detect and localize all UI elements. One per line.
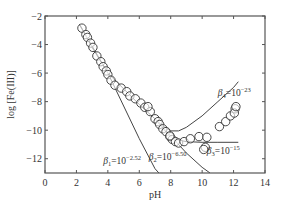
- x-tick-label: 12: [229, 177, 239, 188]
- y-tick-label: −10: [26, 125, 42, 136]
- data-point: [186, 135, 194, 143]
- data-point: [166, 132, 174, 140]
- model-curve: [80, 25, 210, 173]
- x-tick-label: 14: [260, 177, 270, 188]
- y-tick-label: −6: [31, 68, 42, 79]
- beta-label: β2=10−6.50: [148, 150, 187, 163]
- data-point: [89, 43, 97, 51]
- data-point: [195, 132, 203, 140]
- data-point: [203, 133, 211, 141]
- x-tick-label: 4: [105, 177, 110, 188]
- data-point: [144, 102, 152, 110]
- x-tick-label: 2: [74, 177, 79, 188]
- beta-annotations: β1=10−2.52β2=10−6.50β3=10−15β4=10−23: [102, 86, 251, 168]
- ph-iron-solubility-chart: 02468101214 −2−4−6−8−10−12 pH log [Fe(II…: [0, 0, 281, 204]
- data-point: [232, 102, 240, 110]
- beta-label: β3=10−15: [206, 144, 240, 157]
- y-tick-label: −12: [26, 153, 42, 164]
- x-axis-title: pH: [149, 189, 161, 200]
- y-tick-label: −8: [31, 96, 42, 107]
- beta-label: β4=10−23: [217, 86, 251, 99]
- y-tick-label: −2: [31, 11, 42, 22]
- x-tick-label: 8: [168, 177, 173, 188]
- beta-label: β1=10−2.52: [102, 154, 141, 167]
- x-tick-label: 0: [43, 177, 48, 188]
- x-tick-label: 10: [197, 177, 207, 188]
- y-tick-label: −4: [31, 39, 42, 50]
- data-points: [78, 24, 240, 154]
- y-axis-title: log [Fe(III)]: [5, 70, 17, 119]
- x-tick-label: 6: [137, 177, 142, 188]
